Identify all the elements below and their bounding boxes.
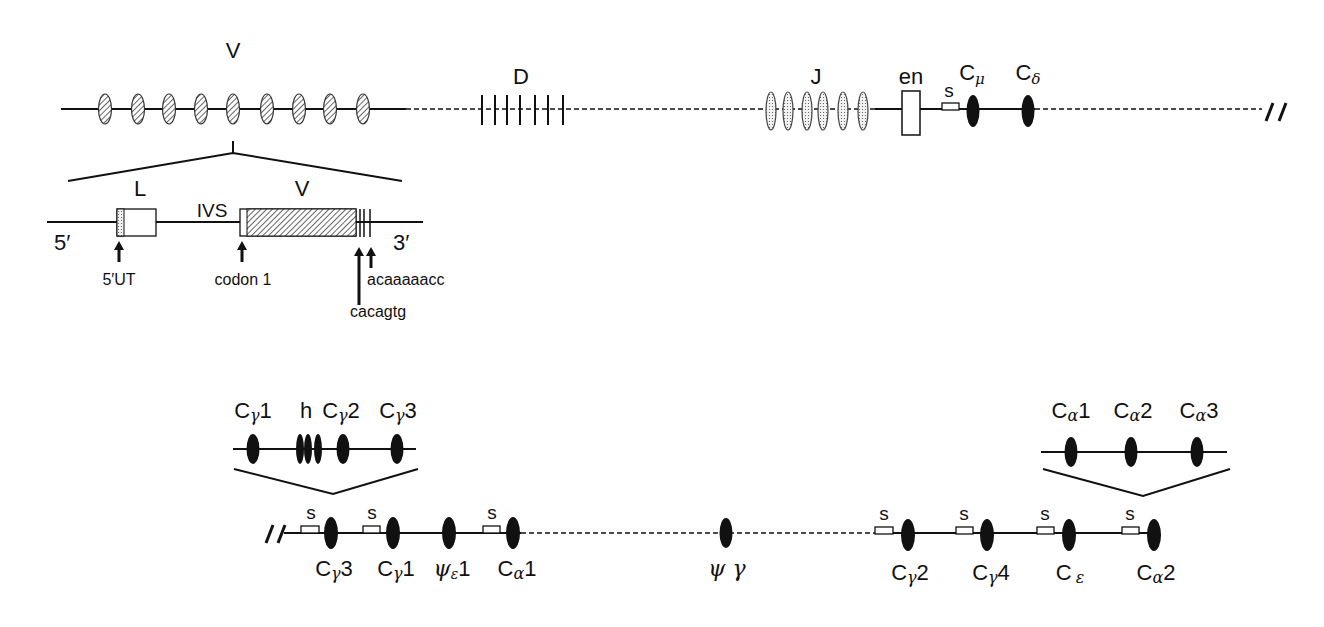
gamma1-detail-label: Cγ1 xyxy=(234,398,272,425)
five-prime-label: 5′ xyxy=(54,230,70,255)
c-mu-segment xyxy=(967,95,980,127)
v-segments xyxy=(99,94,370,124)
switch-label: s xyxy=(487,502,497,523)
codon1-annotation: codon 1 xyxy=(215,271,272,288)
arrow-up-icon xyxy=(354,247,364,305)
c-delta-label: Cδ xyxy=(1016,60,1041,88)
alpha1-exon xyxy=(1065,437,1078,467)
gamma2-exon xyxy=(337,434,350,464)
d-segments xyxy=(482,95,563,125)
exon-v-hatched xyxy=(247,209,356,236)
v-cluster-label: V xyxy=(226,38,241,63)
c-delta-segment xyxy=(1022,95,1035,127)
psi-epsilon1-label: ψε1 xyxy=(433,556,470,582)
locus-diagram: V D J en s Cμ Cδ xyxy=(0,0,1324,627)
gamma-expansion-lines xyxy=(234,469,418,494)
bottom-locus: s s s s s s s Cγ3 Cγ1 xyxy=(266,502,1175,587)
switch-box xyxy=(1037,527,1054,534)
v-segment xyxy=(261,94,274,124)
top-locus: V D J en s Cμ Cδ xyxy=(61,38,1286,135)
c-mu-label: Cμ xyxy=(959,60,985,88)
hinge-exon xyxy=(296,434,304,464)
switch-label: s xyxy=(306,502,316,523)
v-segment xyxy=(357,94,370,124)
alpha2-detail-label: Cα2 xyxy=(1114,398,1153,425)
c-alpha1-gene xyxy=(506,517,520,549)
c-gamma2-gene xyxy=(901,519,915,551)
v-segment xyxy=(132,94,145,124)
switch-box xyxy=(956,527,973,534)
j-segment xyxy=(818,92,828,130)
break-icon xyxy=(266,525,285,543)
gene-labels: Cγ3 Cγ1 ψε1 Cα1 ψ γ Cγ2 Cγ4 Cε xyxy=(315,556,1175,587)
switch-label: s xyxy=(367,502,377,523)
switch-label: s xyxy=(879,503,889,524)
switch-box xyxy=(363,526,380,533)
c-gamma3-gene xyxy=(324,517,338,549)
c-gamma3-label: Cγ3 xyxy=(315,556,353,583)
break-icon xyxy=(1266,103,1286,121)
arrow-up-icon xyxy=(114,241,124,262)
v-segment xyxy=(163,94,176,124)
alpha1-detail-label: Cα1 xyxy=(1052,398,1091,425)
c-gamma1-gene xyxy=(386,517,400,549)
switch-box xyxy=(942,103,959,110)
d-cluster-label: D xyxy=(513,64,529,89)
heptamer-annotation: cacagtg xyxy=(350,303,406,320)
c-alpha2-label: Cα2 xyxy=(1137,560,1176,587)
utr-annotation: 5′UT xyxy=(102,271,135,288)
alpha2-exon xyxy=(1125,437,1138,467)
arrow-up-icon xyxy=(366,247,376,268)
v-segment xyxy=(293,94,306,124)
switch-box xyxy=(301,526,319,533)
switch-box xyxy=(483,526,500,533)
switch-label: s xyxy=(1125,503,1135,524)
three-prime-label: 3′ xyxy=(393,230,409,255)
v-segment xyxy=(324,94,337,124)
j-cluster-label: J xyxy=(811,64,822,89)
c-gamma2-label: Cγ2 xyxy=(891,560,929,587)
c-epsilon-gene xyxy=(1062,519,1076,551)
exon-l-label: L xyxy=(134,176,146,201)
arrow-up-icon xyxy=(237,241,247,262)
alpha-expansion-lines xyxy=(1043,469,1230,496)
ivs-label: IVS xyxy=(197,200,228,221)
gamma3-detail-label: Cγ3 xyxy=(379,398,417,425)
nonamer-annotation: acaaaaacc xyxy=(367,271,444,288)
hinge-label: h xyxy=(300,398,312,423)
psi-epsilon1-gene xyxy=(442,517,456,549)
j-segments xyxy=(766,92,868,130)
hinge-exon xyxy=(304,434,312,464)
j-segment xyxy=(766,92,776,130)
hinge-exon xyxy=(314,434,322,464)
switch-box xyxy=(1122,527,1139,534)
expansion-lines xyxy=(68,153,402,181)
alpha3-detail-label: Cα3 xyxy=(1180,398,1219,425)
v-segment xyxy=(195,94,208,124)
c-alpha1-label: Cα1 xyxy=(498,556,537,583)
j-segment xyxy=(858,92,868,130)
exon-v-label: V xyxy=(295,176,310,201)
c-gamma4-gene xyxy=(980,519,994,551)
j-segment xyxy=(802,92,812,130)
switch-label: s xyxy=(944,80,954,101)
switch-labels: s s s s s s s xyxy=(306,502,1135,524)
utr-region xyxy=(117,209,124,236)
switch-label: s xyxy=(959,503,969,524)
gamma-gene-detail: Cγ1 h Cγ2 Cγ3 xyxy=(233,398,418,494)
gamma3-exon xyxy=(391,434,404,464)
v-segment xyxy=(99,94,112,124)
alpha3-exon xyxy=(1191,437,1204,467)
alpha-gene-detail: Cα1 Cα2 Cα3 xyxy=(1041,398,1230,496)
j-segment xyxy=(783,92,793,130)
v-segment xyxy=(227,94,240,124)
c-epsilon-label: Cε xyxy=(1056,560,1084,587)
c-alpha2-gene xyxy=(1147,519,1161,551)
switch-label: s xyxy=(1040,503,1050,524)
enhancer-box xyxy=(902,91,920,135)
j-segment xyxy=(838,92,848,130)
gamma1-exon xyxy=(247,434,260,464)
v-gene-detail: L IVS V 5′ 3′ xyxy=(47,141,444,320)
gamma2-detail-label: Cγ2 xyxy=(322,398,360,425)
switch-box xyxy=(875,527,893,534)
